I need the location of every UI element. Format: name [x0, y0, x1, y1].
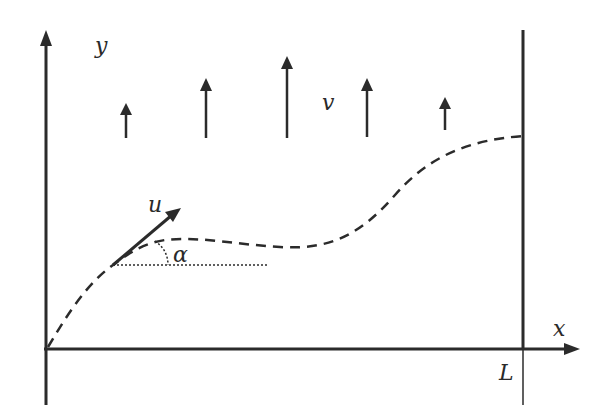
x-axis — [44, 343, 580, 355]
field-arrow-4 — [361, 78, 373, 137]
diagram-canvas: y x L v α — [0, 0, 602, 419]
y-axis-label: y — [94, 33, 108, 58]
arrow-up-icon — [120, 103, 132, 115]
arrow-up-icon — [439, 97, 451, 109]
field-arrow-5 — [439, 97, 451, 130]
x-axis-label: x — [553, 316, 566, 341]
arrow-up-icon — [281, 56, 293, 69]
angle-arc — [155, 241, 168, 265]
tangent-vector-label: u — [148, 192, 162, 217]
velocity-field-label: v — [322, 90, 335, 115]
length-label: L — [498, 360, 514, 385]
trajectory-curve — [48, 136, 523, 347]
velocity-field — [120, 56, 451, 138]
field-arrow-3 — [281, 56, 293, 138]
tangent-vector — [113, 208, 181, 265]
angle-label: α — [173, 242, 188, 267]
arrow-up-icon — [361, 78, 373, 91]
field-arrow-1 — [120, 103, 132, 138]
y-axis-arrowhead-icon — [40, 30, 52, 46]
x-axis-arrowhead-icon — [564, 343, 580, 355]
arrow-up-icon — [200, 78, 212, 91]
field-arrow-2 — [200, 78, 212, 138]
